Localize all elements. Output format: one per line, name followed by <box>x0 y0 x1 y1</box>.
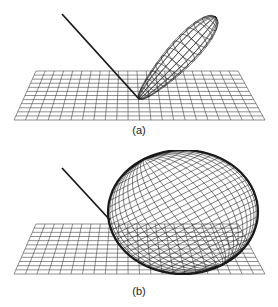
incident-ray <box>62 168 110 220</box>
panel-b: (b) <box>0 150 278 307</box>
ground-plane-grid <box>14 224 265 274</box>
panel-a-label: (a) <box>0 124 278 136</box>
broad-reflection-lobe <box>108 150 258 274</box>
panel-b-label: (b) <box>0 285 278 297</box>
panel-a: (a) <box>0 0 278 150</box>
panel-b-illustration <box>0 150 278 307</box>
ground-plane-grid <box>14 71 265 120</box>
incident-ray <box>62 14 139 99</box>
narrow-reflection-lobe <box>139 15 219 99</box>
